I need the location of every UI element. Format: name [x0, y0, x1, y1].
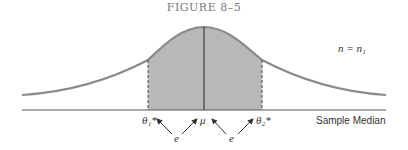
arrow-e2-mu — [212, 119, 226, 134]
error-label-right: e — [229, 132, 234, 144]
error-label-left: e — [174, 132, 179, 144]
figure: FIGURE 8–5 n = n₁ Sample Median μ θ₁* θ₂… — [0, 0, 408, 150]
theta2-label: θ₂* — [256, 114, 271, 126]
arrow-e2-theta2 — [238, 119, 253, 134]
mean-label: μ — [199, 114, 206, 126]
normal-curve-diagram: n = n₁ Sample Median μ θ₁* θ₂* e e — [0, 0, 408, 150]
axis-label: Sample Median — [316, 115, 385, 126]
shaded-region — [148, 27, 262, 110]
curve-label: n = n₁ — [338, 42, 366, 54]
arrow-e1-theta1 — [157, 119, 172, 134]
theta1-label: θ₁* — [142, 114, 157, 126]
arrow-e1-mu — [182, 119, 197, 134]
